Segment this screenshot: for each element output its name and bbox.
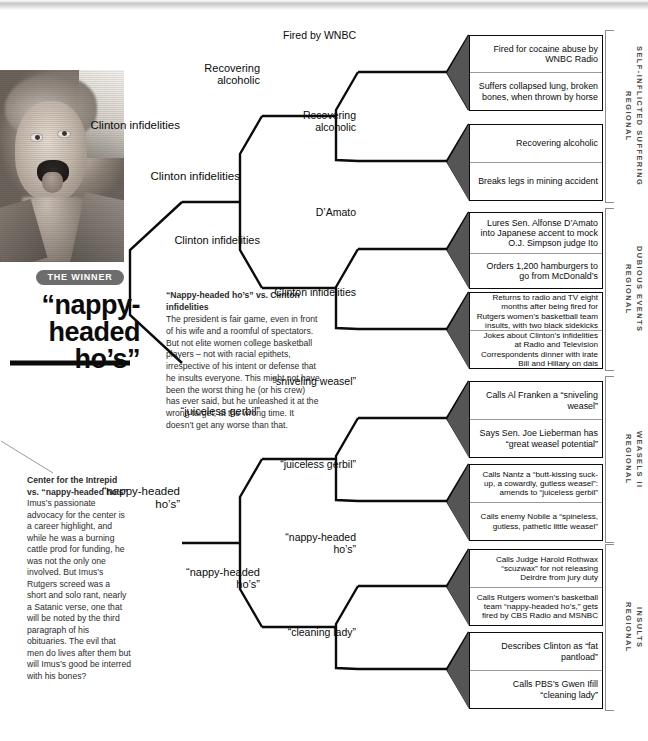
leaf-entry[interactable]: Orders 1,200 hamburgers to go from McDon… — [470, 254, 602, 288]
region-label: WEASELS II REGIONAL — [623, 431, 645, 489]
wedge-icon-8 — [447, 632, 469, 709]
region-label: DUBIOUS EVENTS REGIONAL — [623, 246, 645, 332]
leaf-entry[interactable]: Calls enemy Nobile a “spineless, gutless… — [470, 503, 602, 540]
round4-label-2: Clinton infidelities — [152, 234, 260, 246]
matchup-box-8: Describes Clinton as “fat pantload” Call… — [469, 632, 603, 709]
leaf-entry[interactable]: Lures Sen. Alfonse D’Amato into Japanese… — [470, 213, 602, 253]
matchup-box-3: Lures Sen. Alfonse D’Amato into Japanese… — [469, 212, 603, 289]
leaf-entry[interactable]: Recovering alcoholic — [470, 125, 602, 162]
leaf-entry[interactable]: Calls Judge Harold Rothwax “scuzwax” for… — [470, 550, 602, 587]
matchup-group-6: Calls Nantz a “butt-kissing suck-up, a c… — [469, 464, 603, 541]
region-bracket-3: WEASELS II REGIONAL — [605, 376, 648, 543]
region-label: INSULTS REGIONAL — [623, 602, 645, 653]
leaf-entry[interactable]: Calls Nantz a “butt-kissing suck-up, a c… — [470, 465, 602, 502]
matchup-group-7: Calls Judge Harold Rothwax “scuzwax” for… — [469, 549, 603, 626]
round8-label-5: “sniveling weasel” — [242, 376, 356, 388]
matchup-box-6: Calls Nantz a “butt-kissing suck-up, a c… — [469, 464, 603, 541]
wedge-icon-7 — [447, 549, 469, 626]
region-label: SELF-INFLICTED SUFFERING REGIONAL — [623, 46, 645, 186]
round8-label-6: “juiceless gerbil” — [248, 459, 356, 471]
round8-label-4: Clinton infidelities — [246, 287, 356, 299]
matchup-group-8: Describes Clinton as “fat pantload” Call… — [469, 632, 603, 709]
region-bracket-2: DUBIOUS EVENTS REGIONAL — [605, 208, 648, 371]
round8-label-8: “cleaning lady” — [256, 627, 356, 639]
round4-label-4: “nappy-headed ho’s” — [164, 566, 260, 591]
round2-label-1: Clinton infidelities — [84, 119, 180, 132]
leaf-entry[interactable]: Describes Clinton as “fat pantload” — [470, 633, 602, 670]
wedge-icon-1 — [447, 35, 469, 111]
matchup-box-1: Fired for cocaine abuse by WNBC Radio Su… — [469, 35, 603, 111]
round4-label-1: Recovering alcoholic — [164, 62, 260, 87]
round8-label-1: Fired by WNBC — [258, 30, 356, 42]
leaf-entry[interactable]: Calls PBS’s Gwen Ifill “cleaning lady” — [470, 671, 602, 708]
matchup-box-5: Calls Al Franken a “sniveling weasel” Sa… — [469, 381, 603, 458]
round8-label-7: “nappy-headed ho’s” — [256, 532, 356, 556]
leaf-entry[interactable]: Breaks legs in mining accident — [470, 163, 602, 200]
round8-label-2: Recovering alcoholic — [258, 110, 356, 134]
wedge-icon-2 — [447, 124, 469, 201]
round1-label: Clinton infidelities — [128, 170, 240, 183]
matchup-box-4: Returns to radio and TV eight months aft… — [469, 292, 603, 369]
wedge-icon-4 — [447, 292, 469, 369]
round8-label-3: D’Amato — [258, 207, 356, 219]
leaf-entry[interactable]: Calls Rutgers women’s basketball team “n… — [470, 588, 602, 625]
matchup-group-1: Fired for cocaine abuse by WNBC Radio Su… — [469, 35, 603, 111]
matchup-box-2: Recovering alcoholic Breaks legs in mini… — [469, 124, 603, 201]
round4-label-3: “juiceless gerbil” — [156, 405, 260, 417]
wedge-icon-6 — [447, 464, 469, 541]
region-bracket-4: INSULTS REGIONAL — [605, 544, 648, 711]
matchup-group-2: Recovering alcoholic Breaks legs in mini… — [469, 124, 603, 201]
leaf-entry[interactable]: Fired for cocaine abuse by WNBC Radio — [470, 36, 602, 72]
leaf-entry[interactable]: Jokes about Clinton’s infidelities at Ra… — [470, 331, 602, 368]
leaf-entry[interactable]: Returns to radio and TV eight months aft… — [470, 293, 602, 330]
leaf-entry[interactable]: Suffers collapsed lung, broken bones, wh… — [470, 73, 602, 110]
wedge-icon-5 — [447, 381, 469, 458]
matchup-group-4: Returns to radio and TV eight months aft… — [469, 292, 603, 369]
leaf-entry[interactable]: Calls Al Franken a “sniveling weasel” — [470, 382, 602, 419]
leaf-entry[interactable]: Says Sen. Joe Lieberman has “great wease… — [470, 420, 602, 457]
wedge-icon-3 — [447, 212, 469, 289]
region-bracket-1: SELF-INFLICTED SUFFERING REGIONAL — [605, 30, 648, 203]
matchup-group-5: Calls Al Franken a “sniveling weasel” Sa… — [469, 381, 603, 458]
round2-label-2: “nappy-headed ho’s” — [72, 485, 180, 511]
matchup-box-7: Calls Judge Harold Rothwax “scuzwax” for… — [469, 549, 603, 626]
matchup-group-3: Lures Sen. Alfonse D’Amato into Japanese… — [469, 212, 603, 289]
